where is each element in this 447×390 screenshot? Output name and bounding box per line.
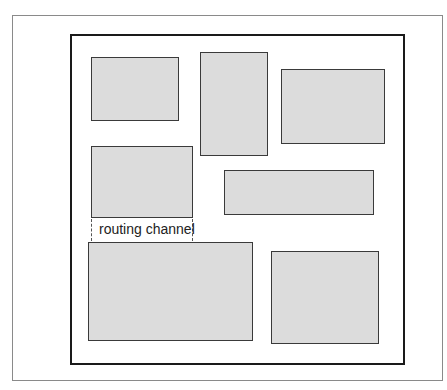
block-3 bbox=[281, 69, 385, 144]
block-7 bbox=[271, 251, 379, 344]
block-2 bbox=[200, 52, 268, 156]
block-5 bbox=[224, 170, 374, 215]
block-4 bbox=[91, 146, 193, 218]
routing-channel-left-boundary bbox=[91, 219, 92, 241]
block-1 bbox=[91, 57, 179, 121]
routing-channel-label: routing channel bbox=[99, 221, 195, 237]
block-6 bbox=[88, 242, 253, 341]
